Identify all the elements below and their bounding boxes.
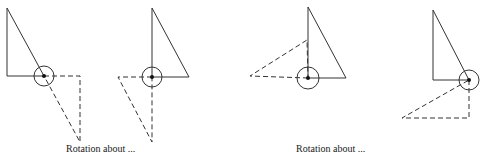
- solid-triangle: [152, 8, 189, 77]
- solid-triangle: [308, 7, 346, 78]
- fig3-figure: [250, 7, 346, 89]
- fig1-figure: [7, 8, 80, 142]
- caption-right: Rotation about ...: [296, 144, 365, 152]
- pivot-dot: [306, 76, 310, 80]
- dashed-triangle: [250, 40, 308, 78]
- solid-triangle: [7, 8, 44, 76]
- dashed-triangle: [44, 76, 80, 142]
- dashed-triangle: [402, 80, 469, 118]
- pivot-dot: [150, 75, 154, 79]
- dashed-triangle: [118, 77, 152, 142]
- pivot-dot: [467, 78, 471, 82]
- solid-triangle: [433, 10, 469, 80]
- caption-left: Rotation about ...: [66, 144, 135, 152]
- rotation-diagram: [0, 0, 487, 152]
- fig4-figure: [402, 10, 479, 118]
- pivot-dot: [42, 74, 46, 78]
- fig2-figure: [118, 8, 189, 142]
